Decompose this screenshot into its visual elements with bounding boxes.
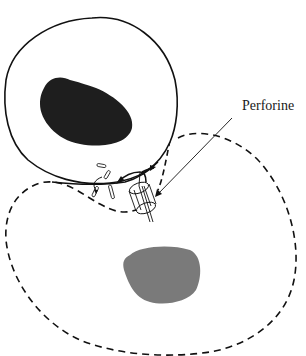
perforin-label: Perforine	[242, 98, 294, 114]
target-nucleus	[123, 247, 200, 304]
diagram-canvas	[0, 0, 306, 356]
